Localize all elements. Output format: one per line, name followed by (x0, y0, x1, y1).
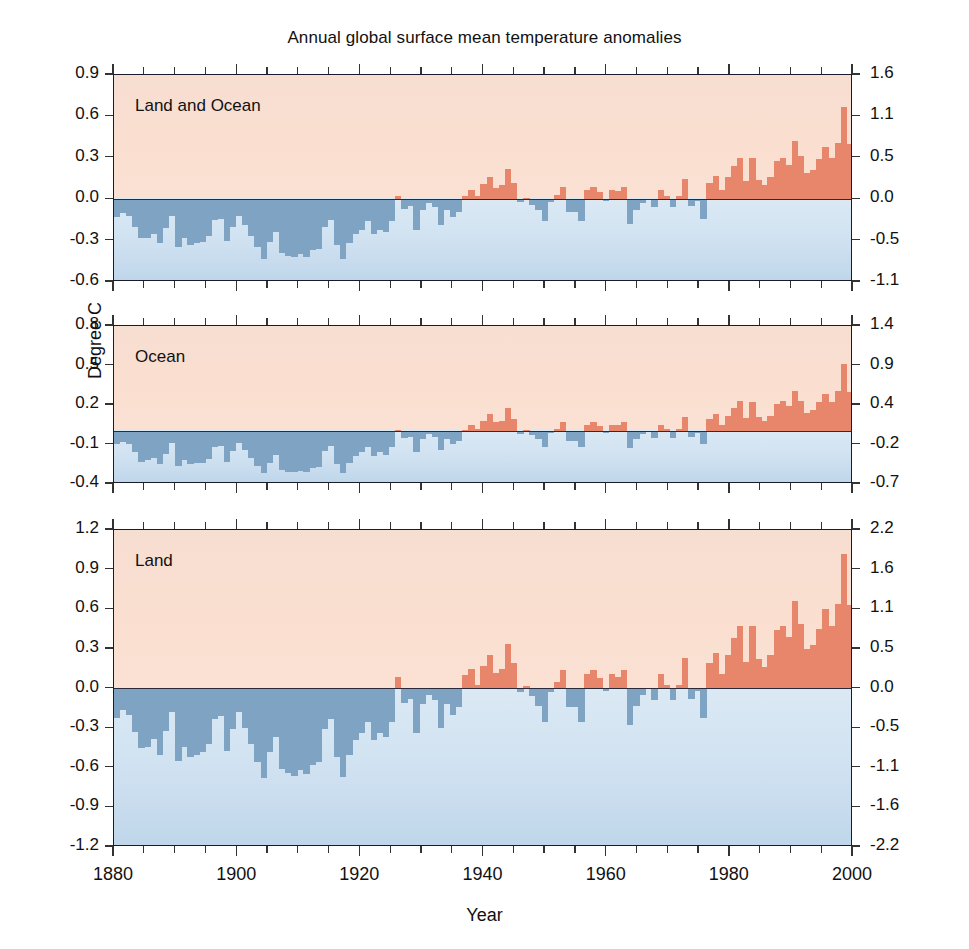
y-tick-label-right: 1.6 (870, 558, 940, 578)
x-tick-mark-bottom (605, 483, 606, 493)
bar-1973 (682, 179, 688, 200)
x-tick-mark-top (513, 318, 514, 325)
x-tick-mark-top (574, 318, 575, 325)
x-tick-mark-top (636, 67, 637, 74)
y-tick-label-right: 1.6 (870, 63, 940, 83)
x-tick-mark-top (451, 67, 452, 74)
x-tick-mark-bottom (790, 846, 791, 853)
y-tick-mark-right (852, 647, 860, 648)
y-tick-mark-right (852, 687, 860, 688)
x-tick-mark-top (605, 519, 606, 529)
x-tick-mark-top (667, 522, 668, 529)
x-tick-mark-bottom (513, 846, 514, 853)
x-tick-mark-bottom (451, 483, 452, 490)
x-tick-mark-bottom (420, 483, 421, 490)
x-tick-mark-bottom (697, 846, 698, 853)
x-tick-mark-top (328, 318, 329, 325)
x-tick-mark-top (605, 64, 606, 74)
bar-1945 (511, 419, 517, 431)
panel-label: Ocean (135, 347, 185, 367)
x-tick-mark-top (390, 522, 391, 529)
x-tick-mark-top (205, 318, 206, 325)
y-tick-label-left: -0.3 (33, 716, 99, 736)
y-tick-mark-left (105, 443, 113, 444)
y-tick-mark-left (105, 687, 113, 688)
y-tick-label-left: 0.6 (33, 597, 99, 617)
y-tick-label-left: 0.9 (33, 63, 99, 83)
x-tick-mark-top (543, 318, 544, 325)
y-tick-label-left: -0.1 (33, 433, 99, 453)
x-tick-mark-bottom (266, 846, 267, 853)
y-tick-mark-right (852, 115, 860, 116)
x-tick-mark-bottom (205, 846, 206, 853)
x-tick-label: 2000 (807, 864, 897, 885)
y-tick-mark-left (105, 239, 113, 240)
y-tick-mark-left (105, 364, 113, 365)
x-tick-mark-top (513, 67, 514, 74)
x-tick-mark-top (574, 522, 575, 529)
bar-2000 (847, 392, 852, 432)
x-tick-mark-bottom (667, 281, 668, 288)
bar-1926 (395, 677, 401, 689)
bar-1925 (389, 689, 395, 722)
bar-1971 (670, 431, 676, 438)
x-tick-mark-bottom (236, 281, 237, 291)
bar-1945 (511, 183, 517, 200)
bar-1976 (700, 689, 706, 718)
x-tick-mark-bottom (697, 281, 698, 288)
y-tick-mark-right (852, 727, 860, 728)
x-tick-mark-bottom (174, 483, 175, 490)
x-tick-label: 1940 (438, 864, 528, 885)
y-tick-label-right: 0.5 (870, 637, 940, 657)
x-tick-mark-top (174, 522, 175, 529)
bar-1971 (670, 199, 676, 207)
y-tick-label-right: -2.2 (870, 835, 940, 855)
x-tick-mark-top (728, 315, 729, 325)
x-tick-mark-bottom (636, 846, 637, 853)
bar-1953 (560, 187, 566, 199)
x-tick-mark-bottom (451, 281, 452, 288)
x-tick-mark-bottom (543, 483, 544, 490)
bar-1950 (542, 431, 548, 447)
y-tick-label-left: 0.3 (33, 146, 99, 166)
y-tick-mark-right (852, 806, 860, 807)
y-tick-label-left: -0.9 (33, 795, 99, 815)
y-tick-mark-right (852, 239, 860, 240)
bar-1963 (621, 670, 627, 688)
bar-1936 (456, 689, 462, 707)
x-tick-mark-top (482, 519, 483, 529)
x-tick-mark-bottom (636, 483, 637, 490)
y-tick-label-right: -0.2 (870, 433, 940, 453)
x-tick-mark-top (420, 522, 421, 529)
y-tick-mark-right (852, 403, 860, 404)
panel-label: Land and Ocean (135, 96, 261, 116)
x-tick-mark-bottom (790, 281, 791, 288)
y-tick-mark-left (105, 647, 113, 648)
x-tick-mark-bottom (174, 846, 175, 853)
x-tick-mark-top (543, 522, 544, 529)
plot-area (113, 529, 852, 846)
y-tick-label-right: -1.6 (870, 795, 940, 815)
panel-land: Land (113, 529, 852, 846)
y-tick-label-left: -0.3 (33, 229, 99, 249)
bar-1936 (456, 431, 462, 440)
x-tick-mark-bottom (420, 846, 421, 853)
x-tick-mark-bottom (482, 483, 483, 493)
x-tick-mark-top (236, 64, 237, 74)
y-tick-label-left: 0.8 (33, 314, 99, 334)
x-tick-mark-bottom (359, 281, 360, 291)
y-tick-label-right: -0.7 (870, 472, 940, 492)
x-tick-label: 1880 (68, 864, 158, 885)
x-tick-mark-top (574, 67, 575, 74)
x-tick-mark-bottom (728, 483, 729, 493)
bar-1953 (560, 670, 566, 688)
y-tick-mark-left (105, 156, 113, 157)
y-tick-label-right: 0.5 (870, 146, 940, 166)
y-tick-mark-right (852, 280, 860, 281)
x-tick-mark-bottom (574, 846, 575, 853)
x-tick-mark-top (112, 519, 113, 529)
y-tick-mark-right (852, 766, 860, 767)
x-tick-mark-top (821, 522, 822, 529)
x-tick-mark-bottom (574, 483, 575, 490)
panel-label: Land (135, 551, 173, 571)
